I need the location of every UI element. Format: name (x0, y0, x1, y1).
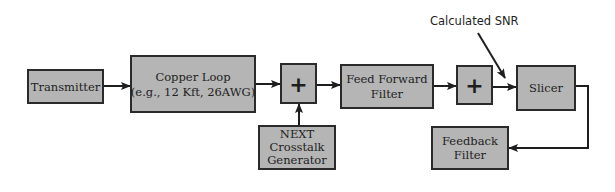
feedback-filter-block: Feedback Filter (432, 127, 508, 169)
slicer-label: Slicer (529, 81, 563, 95)
next-label-line3: Generator (267, 153, 327, 167)
next-label-line2: Crosstalk (269, 140, 325, 154)
transmitter-label: Transmitter (31, 80, 101, 94)
copper-loop-block: Copper Loop (e.g., 12 Kft, 26AWG) (131, 56, 255, 112)
calculated-snr-annotation: Calculated SNR (430, 14, 519, 28)
feed-forward-label-line2: Filter (371, 87, 404, 101)
next-label-line1: NEXT (280, 127, 315, 141)
slicer-block: Slicer (517, 66, 575, 110)
feedback-label-line1: Feedback (442, 134, 499, 148)
feed-forward-label-line1: Feed Forward (346, 72, 428, 86)
feed-forward-filter-block: Feed Forward Filter (341, 65, 433, 108)
adder2-block: + (457, 66, 492, 104)
adder1-block: + (281, 64, 316, 103)
plus-icon: + (465, 73, 483, 98)
copper-loop-label: Copper Loop (155, 70, 230, 84)
plus-icon: + (289, 72, 307, 97)
copper-loop-sublabel: (e.g., 12 Kft, 26AWG) (131, 85, 255, 99)
block-diagram: Transmitter Copper Loop (e.g., 12 Kft, 2… (0, 0, 615, 192)
next-crosstalk-generator-block: NEXT Crosstalk Generator (259, 126, 335, 169)
transmitter-block: Transmitter (28, 70, 103, 103)
feedback-label-line2: Filter (454, 148, 487, 162)
